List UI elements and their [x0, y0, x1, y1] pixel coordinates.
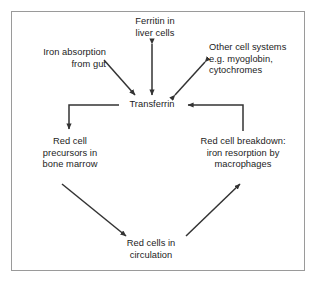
node-ferritin-in-liver-cells: Ferritin in liver cells [120, 16, 190, 39]
node-red-cell-precursors: Red cell precursors in bone marrow [28, 136, 112, 171]
node-iron-absorption-from-gut: Iron absorption from gut [16, 47, 106, 70]
node-other-cell-systems: Other cell systems e.g. myoglobin, cytoc… [209, 42, 309, 77]
node-red-cells-in-circulation: Red cells in circulation [113, 238, 189, 261]
node-transferrin: Transferrin [121, 99, 183, 111]
edge-other-transferrin [175, 62, 205, 95]
edge-circulation-to-breakdown [186, 184, 240, 236]
diagram-canvas: Ferritin in liver cells Other cell syste… [0, 0, 318, 285]
edge-iron-to-transferrin [104, 60, 135, 95]
node-red-cell-breakdown: Red cell breakdown: iron resorption by m… [190, 136, 296, 171]
edge-breakdown-to-transferrin [188, 105, 243, 131]
edge-transferrin-to-precursors [69, 105, 119, 129]
edge-precursors-to-circulation [62, 184, 126, 236]
